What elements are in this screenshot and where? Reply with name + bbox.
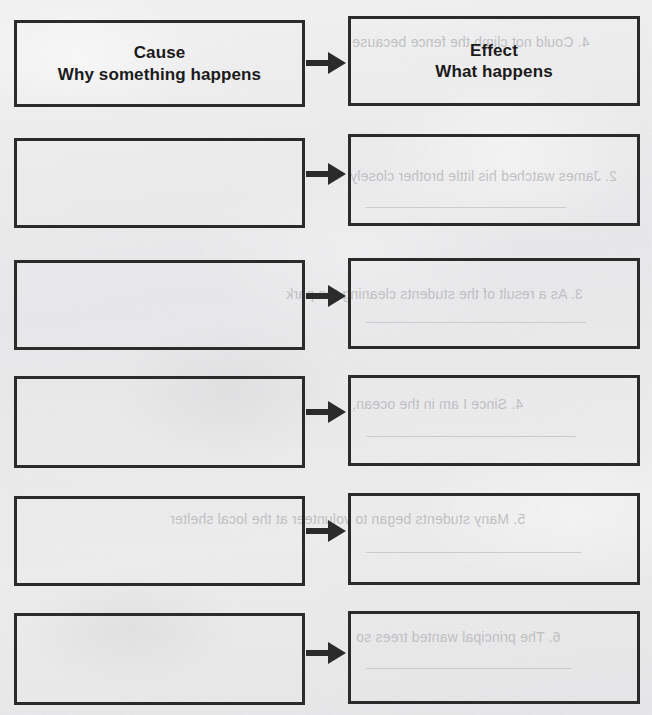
cause-box-3[interactable]: [14, 376, 305, 468]
effect-box-1[interactable]: [348, 134, 640, 226]
effect-box-4[interactable]: [348, 493, 640, 585]
effect-box-header[interactable]: Effect What happens: [348, 16, 640, 106]
right-arrow-icon: [306, 518, 346, 544]
effect-header-label: Effect What happens: [435, 40, 552, 83]
right-arrow-icon: [306, 640, 346, 666]
organizer-row-header: Cause Why something happens Effect What …: [0, 20, 652, 107]
right-arrow-icon: [306, 161, 346, 187]
effect-box-2[interactable]: [348, 258, 640, 349]
effect-box-5[interactable]: [348, 611, 640, 704]
right-arrow-icon: [306, 399, 346, 425]
organizer-row-3: [0, 376, 652, 468]
organizer-row-1: [0, 138, 652, 228]
cause-box-1[interactable]: [14, 138, 305, 228]
cause-header-label: Cause Why something happens: [58, 42, 261, 85]
cause-box-4[interactable]: [14, 496, 305, 586]
organizer-row-5: [0, 613, 652, 705]
organizer-row-4: [0, 496, 652, 586]
effect-box-3[interactable]: [348, 375, 640, 466]
organizer-row-2: [0, 260, 652, 350]
cause-effect-organizer: Cause Why something happens Effect What …: [0, 0, 652, 715]
cause-box-2[interactable]: [14, 260, 305, 350]
cause-box-5[interactable]: [14, 613, 305, 705]
cause-box-header[interactable]: Cause Why something happens: [14, 20, 305, 107]
right-arrow-icon: [306, 50, 346, 76]
right-arrow-icon: [306, 283, 346, 309]
